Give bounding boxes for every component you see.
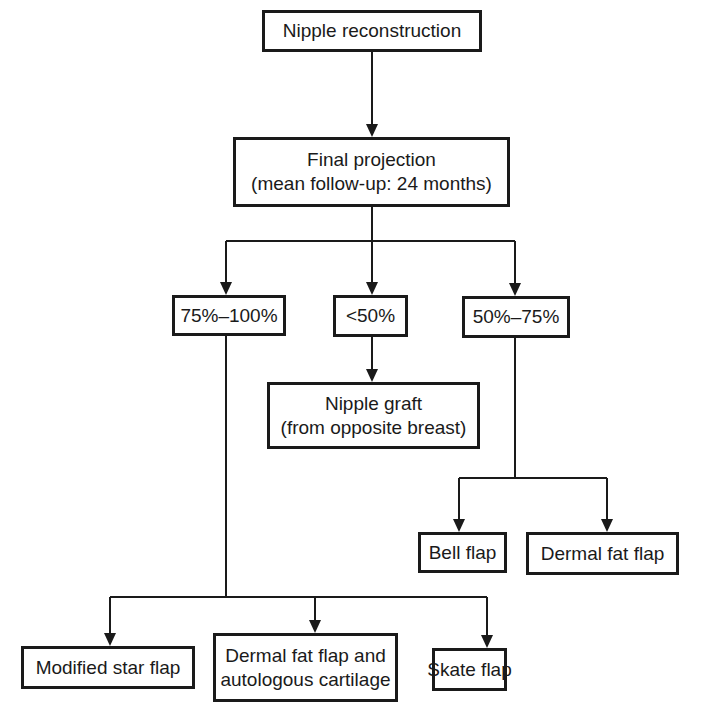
node-label-line2: (from opposite breast) xyxy=(281,416,467,440)
node-bell-flap: Bell flap xyxy=(418,532,507,573)
node-label: 75%–100% xyxy=(180,304,277,328)
node-label: Modified star flap xyxy=(36,656,181,680)
arrowhead xyxy=(366,369,378,382)
node-label: Dermal fat flap xyxy=(541,542,665,566)
node-dermal-fat-flap: Dermal fat flap xyxy=(526,532,679,575)
arrowhead xyxy=(220,282,232,295)
node-label: Skate flap xyxy=(427,658,512,682)
arrowhead xyxy=(481,635,493,648)
node-projection-50-75: 50%–75% xyxy=(462,296,570,338)
arrowhead xyxy=(366,124,378,137)
node-label: <50% xyxy=(346,304,395,328)
node-label-line1: Dermal fat flap and xyxy=(225,644,386,668)
node-projection-under-50: <50% xyxy=(333,295,408,337)
node-label-line1: Nipple graft xyxy=(325,392,422,416)
arrowhead xyxy=(309,620,321,633)
node-skate-flap: Skate flap xyxy=(432,648,507,691)
arrowhead xyxy=(601,519,613,532)
connector-lines xyxy=(0,0,706,721)
node-label-line2: autologous cartilage xyxy=(220,668,390,692)
arrowhead xyxy=(366,282,378,295)
node-dermal-fat-flap-cartilage: Dermal fat flap and autologous cartilage xyxy=(213,633,398,702)
node-nipple-graft: Nipple graft (from opposite breast) xyxy=(267,382,480,449)
node-modified-star-flap: Modified star flap xyxy=(21,646,195,689)
node-label: 50%–75% xyxy=(473,305,560,329)
node-label: Nipple reconstruction xyxy=(283,19,461,43)
node-nipple-reconstruction: Nipple reconstruction xyxy=(262,10,482,52)
arrowhead xyxy=(104,633,116,646)
node-label: Bell flap xyxy=(429,541,497,565)
node-label-line1: Final projection xyxy=(307,148,436,172)
arrowhead xyxy=(453,519,465,532)
node-label-line2: (mean follow-up: 24 months) xyxy=(251,172,492,196)
node-final-projection: Final projection (mean follow-up: 24 mon… xyxy=(233,137,510,207)
arrowhead xyxy=(509,283,521,296)
node-projection-75-100: 75%–100% xyxy=(172,295,286,336)
